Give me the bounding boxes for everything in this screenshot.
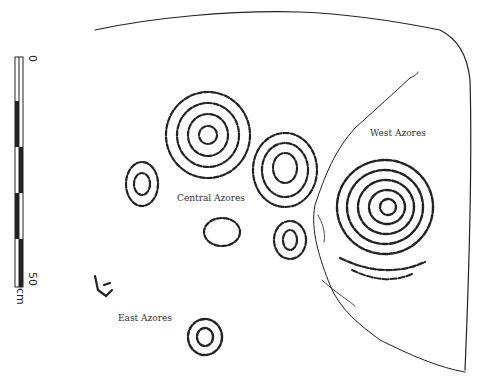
scale-unit-label: cm: [14, 288, 27, 305]
label-central-azores: Central Azores: [177, 193, 245, 203]
label-east-azores: East Azores: [118, 313, 172, 323]
central-small-ring-2: [274, 221, 306, 259]
label-west-azores: West Azores: [370, 128, 426, 138]
west-arc-1: [340, 258, 425, 270]
east-ring: [188, 319, 222, 355]
scale-start-label: 0: [26, 55, 39, 62]
east-small-mark: [95, 276, 112, 296]
central-small-ring-1: [204, 218, 240, 246]
petroglyph-drawing: 0 50 cm Central Azores West Azores East …: [0, 0, 485, 386]
scale-end-label: 50: [26, 272, 39, 286]
scale-bar: [15, 57, 23, 287]
west-spiral-ring-1: [337, 160, 433, 254]
central-small-oval: [126, 162, 158, 206]
central-spiral-a-ring-1: [166, 92, 250, 178]
